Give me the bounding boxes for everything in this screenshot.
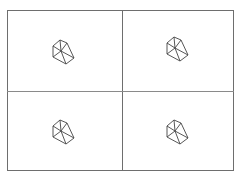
cell-bottom-left: [8, 92, 122, 171]
cell-top-left: [8, 11, 122, 91]
polyhedron-wireframe-icon: [164, 118, 190, 146]
polyhedron-wireframe-icon: [164, 35, 190, 63]
cell-bottom-right: [123, 92, 234, 171]
polyhedron-wireframe-icon: [50, 118, 76, 146]
polyhedron-wireframe-icon: [50, 38, 76, 66]
cell-top-right: [123, 11, 234, 91]
